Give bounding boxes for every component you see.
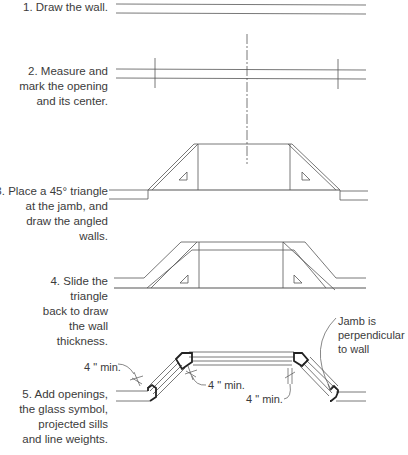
jamb-left-bottom: [148, 385, 156, 401]
step-4-thickness-drawing: [114, 242, 366, 290]
triangle-glyph-right: [294, 275, 302, 283]
step-1-wall-drawing: [116, 4, 366, 14]
step-2-measure-drawing: [116, 34, 366, 164]
step-3-triangle-drawing: [109, 144, 368, 200]
step-5-window-drawing: [116, 318, 366, 401]
drawing-canvas: [0, 0, 408, 455]
clearance-marks: [130, 366, 295, 386]
triangle-glyph-left: [180, 275, 188, 283]
jamb-right-top: [294, 353, 308, 366]
triangle-glyph-left: [179, 172, 187, 180]
jamb-left-top: [176, 353, 192, 369]
triangle-glyph-right: [302, 172, 310, 180]
